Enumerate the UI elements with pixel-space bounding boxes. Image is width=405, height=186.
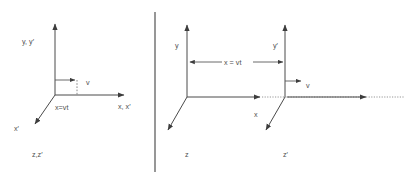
right-z-axis (168, 97, 187, 130)
left-z-prime-axis-label: x′ (14, 124, 20, 133)
left-z-axis (35, 95, 55, 124)
left-x-axis-label: x, x′ (118, 102, 131, 111)
right-y-prime-axis-label: y′ (273, 41, 279, 50)
left-panel: y, y′ x, x′ x′ x=vt v z,z′ (14, 24, 131, 159)
right-frame-prime-label: z′ (283, 150, 289, 159)
right-frame-label: z (185, 150, 189, 159)
separation-label: x = vt (224, 58, 241, 67)
left-y-axis-label: y, y′ (22, 37, 35, 46)
left-velocity-label: v (86, 78, 90, 87)
right-z-prime-axis (266, 97, 285, 130)
galilean-transformation-figure: y, y′ x, x′ x′ x=vt v z,z′ y x z y′ z′ (0, 0, 405, 186)
right-panel: y x z y′ z′ v x = vt (168, 25, 405, 159)
diagram-canvas: y, y′ x, x′ x′ x=vt v z,z′ y x z y′ z′ (0, 0, 405, 186)
right-x-axis-label: x (254, 110, 258, 119)
right-y-axis-label: y (175, 41, 179, 50)
right-velocity-label: v (306, 81, 310, 90)
left-displacement-label: x=vt (55, 103, 68, 112)
left-frame-label: z,z′ (32, 150, 43, 159)
